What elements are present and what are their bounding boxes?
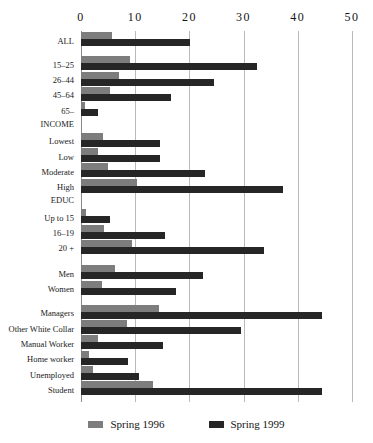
legend-swatch-icon	[88, 421, 103, 428]
legend-label: Spring 1999	[231, 418, 285, 430]
bar	[81, 179, 137, 186]
bar	[81, 170, 205, 177]
bar	[81, 155, 160, 162]
category-label: Up to 15	[44, 213, 74, 223]
legend-item[interactable]: Spring 1999	[209, 418, 285, 430]
category-label: 15–25	[53, 60, 74, 70]
category-label: 16–19	[53, 228, 74, 238]
category-labels: ALL15–2526–4445–6465–INCOMELowestLowMode…	[0, 31, 78, 402]
bar	[81, 186, 283, 193]
bar	[81, 79, 214, 86]
category-group-header: INCOME	[40, 119, 74, 129]
x-axis-tick-label: 0	[77, 10, 85, 25]
bar	[81, 327, 241, 334]
bar	[81, 335, 98, 342]
category-label: Other White Collar	[9, 324, 74, 334]
bar	[81, 72, 119, 79]
bar	[81, 163, 108, 170]
x-axis-tick-label: 10	[128, 10, 143, 25]
bar	[81, 247, 264, 254]
bar	[81, 87, 110, 94]
bar	[81, 232, 165, 239]
bar	[81, 148, 98, 155]
bar	[81, 56, 130, 63]
category-group-header: EDUC	[51, 195, 74, 205]
x-axis-tick-label: 50	[345, 10, 360, 25]
bar	[81, 272, 203, 279]
gridline	[189, 31, 190, 402]
category-label: Manual Worker	[21, 339, 74, 349]
bar	[81, 63, 257, 70]
category-label: 26–44	[53, 75, 74, 85]
bar	[81, 265, 115, 272]
bar	[81, 109, 98, 116]
bar	[81, 225, 104, 232]
plot-area	[81, 31, 352, 402]
gridline	[244, 31, 245, 402]
category-label: Low	[58, 152, 74, 162]
gridline	[352, 31, 353, 402]
bar	[81, 381, 153, 388]
bar	[81, 39, 190, 46]
bar	[81, 351, 89, 358]
bar	[81, 281, 102, 288]
bar	[81, 209, 86, 216]
legend-item[interactable]: Spring 1996	[88, 418, 164, 430]
x-axis-tick-label: 20	[182, 10, 197, 25]
bar	[81, 358, 128, 365]
x-axis-tick-label: 40	[290, 10, 305, 25]
category-label: Men	[58, 269, 74, 279]
bar	[81, 288, 176, 295]
bar	[81, 373, 139, 380]
bar-chart: 01020304050 ALL15–2526–4445–6465–INCOMEL…	[0, 0, 373, 443]
bar	[81, 133, 103, 140]
category-label: Lowest	[49, 136, 74, 146]
bar	[81, 388, 322, 395]
bar	[81, 240, 132, 247]
category-label: Student	[48, 385, 74, 395]
category-label: Moderate	[41, 167, 74, 177]
category-label: High	[57, 182, 74, 192]
category-label: 45–64	[53, 90, 74, 100]
bar	[81, 305, 159, 312]
category-label: Managers	[40, 308, 74, 318]
bar	[81, 140, 160, 147]
category-label: Unemployed	[30, 370, 74, 380]
category-label: 65–	[61, 106, 74, 116]
category-label: ALL	[57, 36, 74, 46]
category-label: Home worker	[27, 354, 74, 364]
x-axis-tick-labels: 01020304050	[0, 10, 373, 28]
legend-label: Spring 1996	[110, 418, 164, 430]
gridline	[298, 31, 299, 402]
category-label: Women	[48, 284, 74, 294]
bar	[81, 94, 171, 101]
bar	[81, 366, 93, 373]
bar	[81, 320, 127, 327]
bar	[81, 102, 85, 109]
category-label: 20 +	[59, 243, 74, 253]
bar	[81, 342, 163, 349]
bar	[81, 312, 322, 319]
bar	[81, 216, 110, 223]
legend-swatch-icon	[209, 421, 224, 428]
chart-legend: Spring 1996Spring 1999	[0, 414, 373, 434]
x-axis-tick-label: 30	[236, 10, 251, 25]
bar	[81, 32, 112, 39]
